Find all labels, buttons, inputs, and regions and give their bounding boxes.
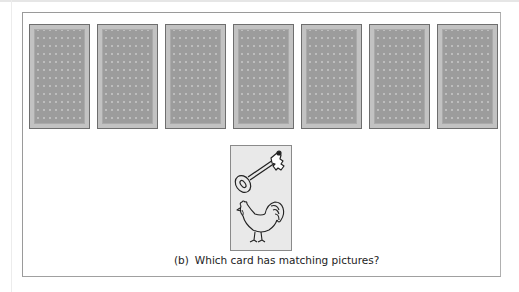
- face-down-card-3[interactable]: [165, 24, 226, 129]
- card-back-pattern: [442, 29, 493, 124]
- caption-text: Which card has matching pictures?: [195, 254, 379, 266]
- card-back-pattern: [374, 29, 425, 124]
- figure-caption: (b)Which card has matching pictures?: [174, 254, 379, 266]
- top-divider: [0, 0, 519, 2]
- caption-label: (b): [174, 254, 189, 266]
- key-icon: [232, 151, 284, 195]
- face-down-card-1[interactable]: [29, 24, 90, 129]
- face-down-card-2[interactable]: [97, 24, 158, 129]
- card-back-pattern: [170, 29, 221, 124]
- target-card-pictures: [231, 146, 291, 250]
- face-down-card-4[interactable]: [233, 24, 294, 129]
- face-down-card-6[interactable]: [369, 24, 430, 129]
- card-back-pattern: [102, 29, 153, 124]
- card-back-pattern: [34, 29, 85, 124]
- face-down-card-5[interactable]: [301, 24, 362, 129]
- rooster-icon: [237, 201, 284, 242]
- card-back-pattern: [306, 29, 357, 124]
- target-card: [230, 145, 292, 251]
- left-divider: [11, 0, 12, 292]
- card-back-pattern: [238, 29, 289, 124]
- face-down-card-7[interactable]: [437, 24, 498, 129]
- face-down-card-row: [29, 24, 498, 129]
